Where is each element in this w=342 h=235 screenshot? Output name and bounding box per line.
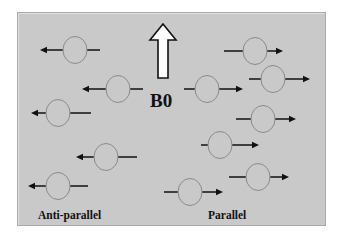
anti-parallel-spin: [82, 76, 143, 103]
anti-parallel-spin: [40, 37, 100, 64]
anti-parallel-spin: [76, 144, 137, 171]
arrow-left-icon: [82, 86, 89, 92]
b0-label: B0: [150, 90, 172, 112]
proton-circle-icon: [46, 100, 70, 127]
anti-parallel-label: Anti-parallel: [38, 209, 101, 221]
proton-circle-icon: [246, 164, 270, 191]
arrow-left-icon: [31, 110, 38, 116]
arrow-right-icon: [303, 76, 310, 82]
parallel-spin: [184, 76, 243, 103]
parallel-label: Parallel: [208, 209, 246, 221]
arrow-right-icon: [252, 142, 259, 148]
proton-circle-icon: [243, 38, 267, 65]
proton-circle-icon: [106, 76, 130, 103]
arrow-left-icon: [28, 183, 35, 189]
arrow-right-icon: [236, 86, 243, 92]
parallel-spin: [229, 164, 289, 191]
arrow-right-icon: [289, 116, 296, 122]
proton-circle-icon: [46, 173, 70, 200]
arrow-right-icon: [216, 189, 223, 195]
arrow-right-icon: [276, 48, 283, 54]
arrow-left-icon: [76, 154, 83, 160]
anti-parallel-spin: [28, 173, 88, 200]
parallel-spin: [164, 179, 223, 206]
proton-circle-icon: [94, 144, 118, 171]
proton-circle-icon: [261, 66, 285, 93]
arrow-right-icon: [282, 174, 289, 180]
proton-circle-icon: [178, 179, 202, 206]
proton-circle-icon: [195, 76, 219, 103]
parallel-spin: [201, 132, 259, 159]
spin-diagram: [0, 0, 342, 235]
parallel-spin: [236, 106, 296, 133]
proton-circle-icon: [251, 106, 275, 133]
arrow-left-icon: [40, 47, 47, 53]
parallel-spin: [249, 66, 310, 93]
b0-field-arrow-icon: [150, 24, 176, 78]
proton-circle-icon: [63, 37, 87, 64]
anti-parallel-spin: [31, 100, 91, 127]
parallel-spin: [224, 38, 283, 65]
proton-circle-icon: [208, 132, 232, 159]
